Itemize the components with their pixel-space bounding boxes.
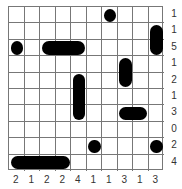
grid-cell[interactable]	[102, 89, 118, 105]
grid-cell[interactable]	[56, 138, 72, 154]
grid-cell[interactable]	[118, 7, 134, 23]
grid-cell[interactable]	[56, 73, 72, 89]
grid-cell[interactable]	[87, 155, 103, 171]
grid-cell[interactable]	[71, 7, 87, 23]
grid-cell[interactable]	[133, 122, 149, 138]
grid-cell[interactable]	[149, 7, 165, 23]
grid-cell[interactable]	[9, 73, 25, 89]
column-clue: 1	[132, 174, 148, 185]
grid-cell[interactable]	[56, 89, 72, 105]
grid-cell[interactable]	[133, 138, 149, 154]
grid-cell[interactable]	[133, 56, 149, 72]
grid-cell[interactable]	[25, 56, 41, 72]
grid-cell[interactable]	[87, 56, 103, 72]
grid-cell[interactable]	[102, 23, 118, 39]
grid-cell[interactable]	[149, 155, 165, 171]
grid-cell[interactable]	[87, 73, 103, 89]
grid-cell[interactable]	[102, 155, 118, 171]
grid-cell[interactable]	[133, 40, 149, 56]
grid-cell[interactable]	[56, 122, 72, 138]
grid-cell[interactable]	[149, 56, 165, 72]
grid-cell[interactable]	[102, 56, 118, 72]
grid-cell[interactable]	[40, 138, 56, 154]
grid-cell[interactable]	[87, 89, 103, 105]
grid-cell[interactable]	[40, 7, 56, 23]
grid-cell[interactable]	[102, 40, 118, 56]
grid-cell[interactable]	[87, 105, 103, 121]
ship-segment-bottom-icon	[150, 40, 163, 55]
grid-cell[interactable]	[25, 105, 41, 121]
grid-cell[interactable]	[40, 56, 56, 72]
grid-cell[interactable]	[25, 7, 41, 23]
grid-cell[interactable]	[56, 105, 72, 121]
grid-cell[interactable]	[118, 122, 134, 138]
grid-cell[interactable]	[118, 23, 134, 39]
ship-segment-left-icon	[42, 41, 56, 54]
ship-segment-circle-icon	[150, 140, 163, 153]
grid-cell[interactable]	[9, 56, 25, 72]
grid-cell[interactable]	[40, 23, 56, 39]
grid-cell[interactable]	[102, 138, 118, 154]
grid-cell[interactable]	[102, 122, 118, 138]
grid-cell[interactable]	[118, 89, 134, 105]
grid-cell[interactable]	[118, 155, 134, 171]
ship-segment-right-icon	[133, 107, 147, 120]
grid-cell[interactable]	[87, 7, 103, 23]
grid-cell[interactable]	[9, 89, 25, 105]
grid-cell[interactable]	[133, 155, 149, 171]
grid-cell[interactable]	[133, 89, 149, 105]
grid-cell[interactable]	[25, 23, 41, 39]
grid-cell[interactable]	[9, 7, 25, 23]
grid-cell[interactable]	[133, 73, 149, 89]
grid-cell[interactable]	[118, 40, 134, 56]
grid-cell[interactable]	[71, 23, 87, 39]
grid-cell[interactable]	[71, 56, 87, 72]
grid-cell[interactable]	[149, 122, 165, 138]
grid-cell[interactable]	[56, 23, 72, 39]
grid-cell[interactable]	[25, 89, 41, 105]
ship-segment-circle-icon	[88, 140, 101, 153]
grid-cell[interactable]	[102, 73, 118, 89]
puzzle-grid	[8, 6, 163, 170]
grid-cell[interactable]	[9, 105, 25, 121]
column-clue: 3	[117, 174, 133, 185]
grid-cell[interactable]	[102, 105, 118, 121]
grid-cell[interactable]	[87, 40, 103, 56]
ship-segment-bottom-icon	[73, 105, 86, 120]
grid-cell[interactable]	[40, 89, 56, 105]
grid-cell[interactable]	[25, 40, 41, 56]
grid-cell[interactable]	[25, 73, 41, 89]
grid-cell[interactable]	[71, 155, 87, 171]
grid-cell[interactable]	[40, 105, 56, 121]
grid-cell[interactable]	[149, 89, 165, 105]
grid-cell[interactable]	[25, 122, 41, 138]
grid-cell[interactable]	[71, 122, 87, 138]
grid-cell[interactable]	[40, 73, 56, 89]
grid-cell[interactable]	[9, 122, 25, 138]
column-clue: 1	[101, 174, 117, 185]
column-clue: 1	[24, 174, 40, 185]
ship-segment-circle-icon	[11, 41, 24, 54]
column-clue: 2	[39, 174, 55, 185]
grid-cell[interactable]	[9, 138, 25, 154]
grid-cell[interactable]	[149, 105, 165, 121]
grid-cell[interactable]	[9, 23, 25, 39]
grid-cell[interactable]	[87, 122, 103, 138]
grid-cell[interactable]	[87, 23, 103, 39]
grid-cell[interactable]	[149, 73, 165, 89]
column-clue: 1	[86, 174, 102, 185]
grid-cell[interactable]	[25, 138, 41, 154]
row-clue: 1	[169, 55, 179, 71]
grid-cell[interactable]	[40, 122, 56, 138]
grid-cell[interactable]	[118, 138, 134, 154]
grid-cell[interactable]	[133, 7, 149, 23]
grid-cell[interactable]	[56, 7, 72, 23]
grid-cell[interactable]	[133, 23, 149, 39]
grid-cell[interactable]	[56, 56, 72, 72]
ship-segment-left-icon	[119, 107, 133, 120]
grid-cell[interactable]	[71, 138, 87, 154]
ship-segment-left-icon	[11, 156, 25, 169]
ship-segment-top-icon	[150, 25, 163, 40]
row-clue: 1	[169, 88, 179, 104]
row-clue: 0	[169, 121, 179, 137]
